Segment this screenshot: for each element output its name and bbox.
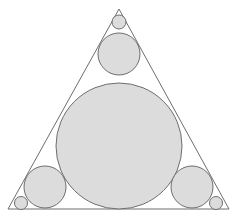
circle-top-medium — [98, 33, 140, 75]
inscribed-circles-group — [15, 15, 223, 210]
circle-bottom-left-small — [15, 197, 28, 210]
circle-bottom-left-medium — [24, 166, 66, 208]
triangle-circles-diagram — [0, 0, 238, 216]
circle-top-small — [112, 15, 126, 29]
circle-bottom-right-medium — [171, 166, 213, 208]
circle-incircle — [56, 83, 182, 209]
circle-bottom-right-small — [210, 197, 223, 210]
